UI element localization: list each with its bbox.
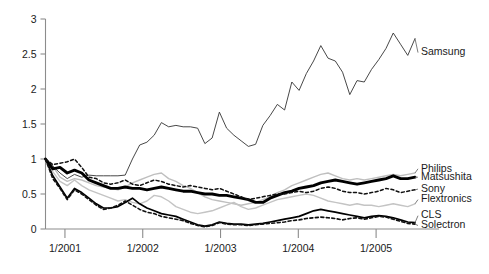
leader-line-cls bbox=[415, 216, 418, 223]
x-tick-label: 1/2002 bbox=[127, 242, 159, 254]
chart-canvas: 00.511.522.53 1/20011/20021/20031/20041/… bbox=[0, 0, 489, 274]
x-tick-label: 1/2003 bbox=[204, 242, 236, 254]
stock-performance-chart: 00.511.522.53 1/20011/20021/20031/20041/… bbox=[0, 0, 489, 274]
y-axis-group: 00.511.522.53 bbox=[22, 13, 46, 235]
series-line-samsung[interactable] bbox=[46, 33, 416, 179]
series-lines bbox=[46, 33, 416, 227]
x-axis-ticks: 1/20011/20021/20031/20041/2005 bbox=[49, 229, 392, 254]
series-label-samsung: Samsung bbox=[421, 45, 466, 57]
y-tick-label: 1 bbox=[31, 153, 37, 165]
leader-line-solectron bbox=[415, 224, 418, 225]
y-tick-label: 2.5 bbox=[22, 48, 37, 60]
series-label-flextronics: Flextronics bbox=[421, 192, 472, 204]
y-tick-label: 2 bbox=[31, 83, 37, 95]
y-tick-label: 0.5 bbox=[22, 188, 37, 200]
y-tick-label: 3 bbox=[31, 13, 37, 25]
y-axis-ticks: 00.511.522.53 bbox=[22, 13, 46, 235]
x-tick-label: 1/2001 bbox=[49, 242, 81, 254]
y-tick-label: 1.5 bbox=[22, 118, 37, 130]
leader-line-samsung bbox=[415, 39, 418, 53]
y-tick-label: 0 bbox=[31, 223, 37, 235]
leader-line-philips bbox=[415, 169, 418, 173]
series-label-solectron: Solectron bbox=[421, 218, 466, 230]
series-label-matsushita: Matsushita bbox=[421, 170, 472, 182]
x-tick-label: 1/2004 bbox=[282, 242, 314, 254]
x-axis-group: 1/20011/20021/20031/20041/2005 bbox=[46, 229, 440, 254]
leader-line-flextronics bbox=[415, 200, 418, 204]
x-tick-label: 1/2005 bbox=[360, 242, 392, 254]
series-labels: SamsungPhilipsMatsushitaSonyFlextronicsC… bbox=[415, 39, 472, 231]
